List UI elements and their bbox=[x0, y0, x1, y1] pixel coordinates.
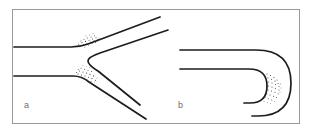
figure-canvas: a b bbox=[0, 0, 311, 133]
figure-background bbox=[0, 0, 311, 133]
figure-container: a b bbox=[0, 0, 311, 133]
panel-a-label: a bbox=[24, 100, 29, 110]
panel-b-label: b bbox=[178, 100, 183, 110]
